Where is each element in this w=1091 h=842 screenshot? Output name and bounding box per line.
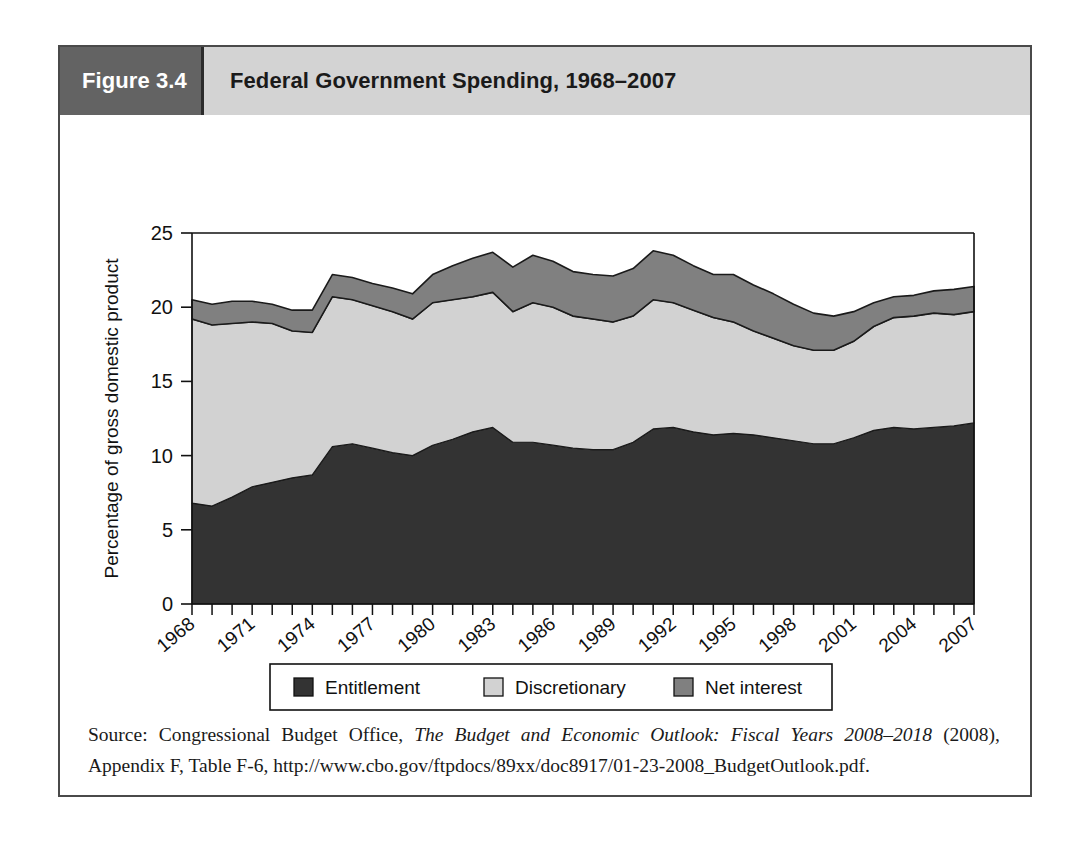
y-tick-label: 20 [151, 296, 173, 318]
y-tick-label: 0 [162, 593, 173, 615]
x-tick-label: 2007 [935, 613, 981, 656]
legend-label-net-interest: Net interest [705, 677, 803, 698]
stacked-area-chart: 0510152025 19681971197419771980198319861… [60, 115, 1030, 715]
x-tick-label-group: 1998 [754, 613, 800, 656]
x-tick-label: 1980 [393, 613, 439, 656]
x-tick-label-group: 1980 [393, 613, 439, 656]
legend-swatch-entitlement [294, 678, 313, 696]
x-tick-label-group: 1995 [694, 613, 740, 656]
x-tick-label: 1974 [273, 613, 319, 657]
x-tick-label-group: 2007 [935, 613, 981, 656]
legend-label-discretionary: Discretionary [515, 677, 626, 698]
x-tick-label: 1986 [514, 613, 560, 656]
x-tick-label-group: 1977 [333, 613, 379, 656]
figure-number-box: Figure 3.4 [60, 47, 204, 115]
figure-header: Figure 3.4 Federal Government Spending, … [60, 47, 1030, 115]
x-tick-label-group: 1974 [273, 613, 319, 657]
x-tick-label: 1989 [574, 613, 620, 656]
x-tick-label: 2004 [875, 613, 921, 657]
x-tick-label-group: 2004 [875, 613, 921, 657]
x-tick-label-group: 2001 [814, 613, 860, 656]
y-axis-title: Percentage of gross domestic product [101, 258, 122, 579]
x-axis-ticks: 1968197119741977198019831986198919921995… [153, 604, 981, 656]
x-tick-label-group: 1989 [574, 613, 620, 656]
chart-legend: EntitlementDiscretionaryNet interest [270, 664, 832, 710]
source-publication-title: The Budget and Economic Outlook: Fiscal … [414, 724, 932, 745]
y-tick-label: 25 [151, 222, 173, 244]
x-tick-label: 2001 [814, 613, 860, 656]
y-axis-ticks: 0510152025 [151, 222, 192, 615]
figure-number-label: Figure 3.4 [82, 68, 187, 94]
y-tick-label: 15 [151, 370, 173, 392]
x-tick-label: 1998 [754, 613, 800, 656]
source-note: Source: Congressional Budget Office, The… [88, 719, 1000, 781]
y-tick-label: 10 [151, 445, 173, 467]
x-tick-label-group: 1986 [514, 613, 560, 656]
x-tick-label: 1968 [153, 613, 199, 656]
y-axis-title-text: Percentage of gross domestic product [101, 258, 122, 579]
figure-container: Figure 3.4 Federal Government Spending, … [58, 45, 1032, 797]
figure-title-box: Federal Government Spending, 1968–2007 [204, 47, 1030, 115]
x-tick-label: 1977 [333, 613, 379, 656]
x-tick-label-group: 1992 [634, 613, 680, 656]
y-tick-label: 5 [162, 519, 173, 541]
legend-swatch-net-interest [674, 678, 693, 696]
area-series-group [192, 251, 974, 604]
legend-swatch-discretionary [484, 678, 503, 696]
x-tick-label-group: 1971 [213, 613, 259, 656]
x-tick-label: 1992 [634, 613, 680, 656]
x-tick-label: 1983 [453, 613, 499, 656]
x-tick-label: 1971 [213, 613, 259, 656]
x-tick-label-group: 1968 [153, 613, 199, 656]
source-prefix: Source: Congressional Budget Office, [88, 724, 414, 745]
x-tick-label: 1995 [694, 613, 740, 656]
chart-area: 0510152025 19681971197419771980198319861… [60, 115, 1030, 715]
page-title: Federal Government Spending, 1968–2007 [230, 68, 676, 94]
legend-label-entitlement: Entitlement [325, 677, 421, 698]
x-tick-label-group: 1983 [453, 613, 499, 656]
